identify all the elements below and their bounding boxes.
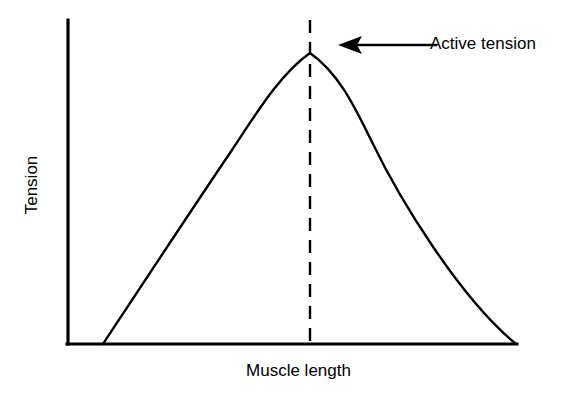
active-tension-annotation-label: Active tension — [430, 35, 536, 52]
chart-plot-area — [0, 0, 577, 404]
x-axis-label: Muscle length — [0, 362, 577, 379]
active-tension-length-chart: Tension Muscle length Active tension — [0, 0, 577, 404]
y-axis-label-container: Tension — [0, 120, 64, 250]
y-axis-label: Tension — [22, 156, 42, 215]
